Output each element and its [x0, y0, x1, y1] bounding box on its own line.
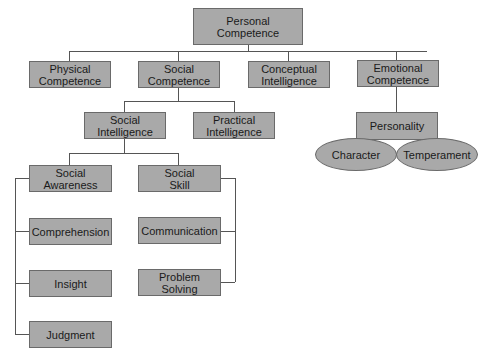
node-label: Physical Competence — [39, 63, 101, 87]
connector — [15, 334, 30, 335]
connector — [69, 153, 179, 154]
connector — [178, 87, 179, 101]
node-social-intelligence: Social Intelligence — [84, 112, 166, 139]
node-personality: Personality — [356, 112, 438, 140]
node-temperament: Temperament — [396, 138, 478, 171]
connector — [69, 153, 70, 165]
node-label: Social Competence — [148, 63, 210, 87]
node-insight: Insight — [29, 270, 112, 297]
connector — [220, 178, 235, 179]
node-social-skill: Social Skill — [138, 165, 221, 192]
node-personal-competence: Personal Competence — [193, 8, 303, 45]
connector — [15, 178, 16, 334]
node-label: Insight — [54, 278, 86, 290]
node-communication: Communication — [138, 217, 221, 244]
connector — [15, 178, 30, 179]
node-label: Social Skill — [165, 167, 195, 191]
node-comprehension: Comprehension — [29, 218, 112, 245]
connector — [15, 283, 30, 284]
node-label: Emotional Competence — [367, 62, 429, 86]
connector — [69, 51, 70, 61]
node-label: Judgment — [46, 329, 94, 341]
node-label: Problem Solving — [159, 271, 200, 295]
connector — [220, 282, 235, 283]
node-label: Personal Competence — [217, 15, 279, 39]
connector — [235, 178, 236, 282]
node-label: Social Awareness — [43, 167, 97, 191]
connector — [124, 101, 125, 112]
node-practical-intelligence: Practical Intelligence — [193, 112, 275, 139]
node-label: Practical Intelligence — [206, 114, 262, 138]
node-label: Personality — [370, 120, 424, 132]
connector — [69, 51, 427, 52]
connector — [220, 231, 235, 232]
connector — [124, 139, 125, 153]
node-label: Communication — [141, 225, 217, 237]
node-label: Character — [332, 149, 380, 161]
connector — [178, 153, 179, 165]
connector — [124, 101, 234, 102]
connector — [178, 51, 179, 61]
node-label: Social Intelligence — [97, 114, 153, 138]
connector — [288, 51, 289, 61]
node-emotional-competence: Emotional Competence — [357, 60, 439, 87]
node-judgment: Judgment — [29, 321, 112, 348]
connector — [396, 87, 397, 112]
node-social-competence: Social Competence — [138, 61, 220, 88]
node-conceptual-intelligence: Conceptual Intelligence — [248, 61, 330, 88]
connector — [15, 231, 30, 232]
node-problem-solving: Problem Solving — [138, 269, 221, 296]
node-social-awareness: Social Awareness — [29, 165, 112, 192]
node-character: Character — [315, 138, 397, 171]
node-label: Temperament — [403, 149, 470, 161]
competence-hierarchy-diagram: Personal Competence Physical Competence … — [0, 0, 491, 363]
connector — [234, 101, 235, 112]
node-physical-competence: Physical Competence — [29, 61, 111, 88]
node-label: Conceptual Intelligence — [261, 63, 317, 87]
node-label: Comprehension — [32, 226, 110, 238]
